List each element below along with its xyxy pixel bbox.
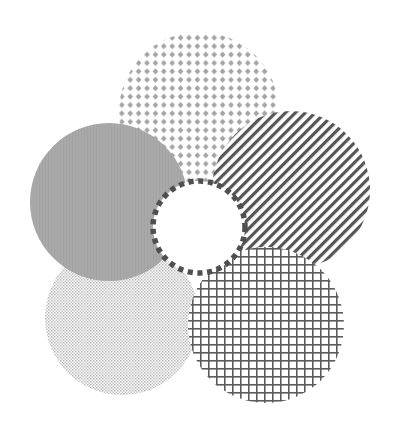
circles-diagram [0, 0, 398, 442]
circle-center-dashed-outline [153, 181, 245, 273]
diagram-canvas: overlapping-patterned-circles [0, 0, 398, 442]
